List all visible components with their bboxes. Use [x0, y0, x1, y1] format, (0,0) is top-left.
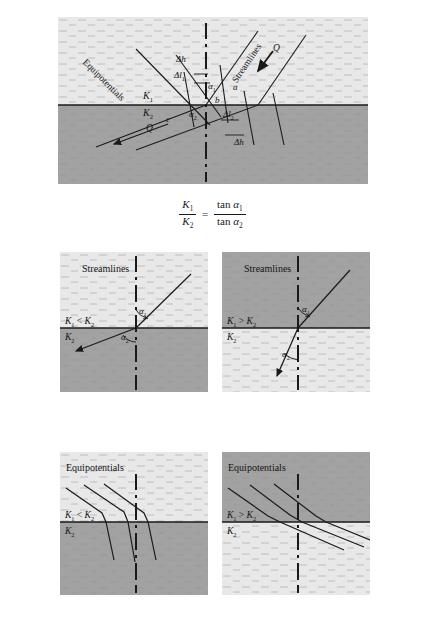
panel-title: Equipotentials: [66, 462, 124, 473]
main-diagram-panel: K1 K2 Equipotentials Streamlines Q Q Δh …: [58, 17, 368, 184]
lower-layer: [222, 522, 370, 595]
equation-left-fraction: K1 K2: [179, 198, 196, 230]
label-alpha1: α1: [302, 304, 310, 316]
refraction-equation: K1 K2 = tan α1 tan α2: [0, 198, 425, 230]
equipotentials-k1-lt-k2-svg: [60, 452, 208, 595]
panel-equipotentials-k1-lt-k2: Equipotentials K1 < K2 K2: [60, 452, 208, 595]
label-delta-h-bottom: Δh: [234, 137, 244, 147]
label-delta-l1: Δl1: [174, 70, 185, 82]
label-delta-h-top: Δh: [176, 54, 186, 64]
label-point-a: a: [233, 82, 238, 92]
label-delta-l2: Δl2: [223, 109, 234, 121]
panel-title: Streamlines: [244, 263, 291, 274]
panel-streamlines-k1-lt-k2: Streamlines K1 < K2 K2 α1 α2: [60, 252, 208, 392]
panel-title: Equipotentials: [228, 462, 286, 473]
equipotentials-k1-gt-k2-svg: [222, 452, 370, 595]
condition-k1-gt-k2: K1 > K2: [227, 316, 256, 328]
label-discharge-out: Q: [146, 123, 153, 133]
label-discharge-in: Q: [273, 43, 280, 53]
label-alpha1: α1: [139, 306, 147, 318]
label-alpha2: α2: [121, 332, 129, 344]
label-alpha1: α1: [208, 81, 216, 93]
condition-k1-lt-k2: K1 < K2: [65, 316, 94, 328]
main-diagram-svg: [58, 17, 368, 184]
label-point-c: c: [166, 114, 170, 124]
condition-k1-gt-k2: K1 > K2: [227, 510, 256, 522]
label-point-b: b: [215, 95, 220, 105]
lower-layer-label: K2: [65, 526, 74, 538]
lower-layer-label: K2: [227, 332, 236, 344]
label-alpha2: α2: [282, 349, 290, 361]
panel-streamlines-k1-gt-k2: Streamlines K1 > K2 K2 α1 α2: [222, 252, 370, 392]
panel-title: Streamlines: [82, 263, 129, 274]
label-alpha2: α2: [189, 109, 197, 121]
lower-layer: [60, 328, 208, 392]
lower-layer-label: K2: [65, 332, 74, 344]
lower-layer-k2: [58, 105, 368, 184]
equation-right-fraction: tan α1 tan α2: [214, 198, 246, 230]
panel-equipotentials-k1-gt-k2: Equipotentials K1 > K2 K2: [222, 452, 370, 595]
equation-equals-sign: =: [199, 208, 211, 220]
lower-layer-label: K2: [227, 526, 236, 538]
label-k1-upper-layer: K1: [143, 90, 153, 103]
condition-k1-lt-k2: K1 < K2: [65, 510, 94, 522]
label-k2-lower-layer: K2: [143, 107, 153, 120]
